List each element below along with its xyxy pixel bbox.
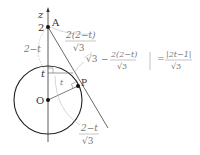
- arc-bottom: [55, 76, 80, 125]
- eq-frac-numerator: 2(2−t): [110, 50, 137, 59]
- point-P-dot: [76, 84, 80, 88]
- label-P: P: [81, 78, 87, 88]
- frac-top-numerator: 2(2−t): [65, 30, 96, 40]
- eq-rhs-numerator: |2t−1|: [166, 50, 192, 59]
- right-angle-marker: [48, 68, 53, 73]
- point-O-dot: [46, 98, 50, 102]
- label-tick-t: t: [41, 68, 46, 79]
- radius-OP: [48, 86, 78, 100]
- arc-mid: [74, 62, 84, 73]
- z-axis-label: z: [37, 9, 44, 20]
- frac-bottom-numerator: 2−t: [80, 123, 98, 133]
- geometry-diagram: z 2 A P O t t 2−t 2(2−t) √3 √3 − 2(2−t) …: [0, 0, 200, 155]
- eq-equals: =: [157, 54, 165, 64]
- z-axis-arrow-icon: [46, 7, 49, 12]
- eq-sqrt3: √3: [86, 54, 98, 64]
- label-tick-2: 2: [38, 22, 44, 33]
- point-A-dot: [46, 25, 50, 29]
- eq-rhs-denominator: √3: [171, 62, 181, 71]
- label-A: A: [51, 17, 60, 28]
- eq-minus: −: [101, 54, 109, 64]
- label-O: O: [36, 95, 44, 106]
- frac-top-denominator: √3: [73, 43, 85, 53]
- label-2-minus-t: 2−t: [23, 44, 41, 54]
- eq-frac-denominator: √3: [117, 62, 127, 71]
- frac-bottom-denominator: √3: [82, 136, 94, 146]
- label-angle-t: t: [60, 78, 64, 87]
